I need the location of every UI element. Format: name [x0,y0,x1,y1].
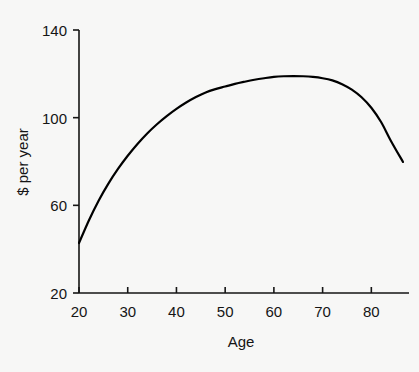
x-tick-label: 30 [119,303,136,320]
y-tick-label: 60 [50,197,67,214]
y-axis-ticks [73,30,79,293]
y-axis-title: $ per year [14,128,31,196]
y-tick-label: 100 [42,109,67,126]
plot-area [0,0,419,372]
x-tick-label: 60 [266,303,283,320]
x-axis-ticks [79,287,371,293]
x-tick-label: 50 [217,303,234,320]
y-tick-label: 20 [50,285,67,302]
y-tick-label: 140 [42,22,67,39]
x-axis-title: Age [228,333,255,350]
x-tick-label: 70 [314,303,331,320]
data-series-line [79,76,403,243]
chart-figure: 2060100140 20304050607080 $ per year Age [0,0,419,372]
x-tick-label: 20 [71,303,88,320]
x-tick-label: 80 [363,303,380,320]
x-tick-label: 40 [168,303,185,320]
